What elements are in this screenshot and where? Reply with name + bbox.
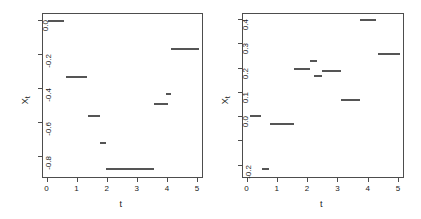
x-axis-title-right: t — [320, 200, 323, 209]
data-segment — [88, 115, 101, 117]
data-segment — [100, 142, 106, 144]
data-segment — [310, 60, 318, 62]
x-axis-tick — [277, 178, 278, 182]
x-axis-tick — [137, 178, 138, 182]
data-segment — [106, 168, 154, 170]
y-axis-tick-label: 0.3 — [242, 43, 250, 54]
x-axis-tick — [398, 178, 399, 182]
y-axis-title-text: X — [220, 98, 230, 104]
x-axis-tick — [197, 178, 198, 182]
x-axis-tick-label: 3 — [127, 185, 147, 193]
x-axis-tick — [247, 178, 248, 182]
x-axis-tick — [368, 178, 369, 182]
y-axis-tick-label: 0.4 — [242, 19, 250, 30]
x-axis-tick — [107, 178, 108, 182]
x-axis-tick-label: 4 — [358, 185, 378, 193]
x-axis-tick — [47, 178, 48, 182]
data-segment — [314, 75, 322, 77]
data-segment — [250, 115, 261, 117]
y-axis-tick-label: 0.0 — [242, 116, 250, 127]
y-axis-tick-label: 0.0 — [42, 20, 50, 31]
y-axis-tick-label: -0.2 — [245, 165, 253, 179]
data-segment — [341, 99, 359, 101]
x-axis-tick — [77, 178, 78, 182]
x-axis-tick-label: 5 — [388, 185, 408, 193]
y-axis-title-subscript: t — [224, 96, 231, 98]
y-axis-tick-label: 0.2 — [242, 68, 250, 79]
y-axis-tick-label: 0.1 — [242, 92, 250, 103]
x-axis-tick-label: 2 — [97, 185, 117, 193]
plot-area-left — [42, 13, 203, 178]
y-axis-tick — [238, 165, 242, 166]
plot-area-right — [242, 13, 404, 178]
data-segment — [66, 76, 86, 78]
data-segment — [270, 123, 294, 125]
panel-right: 0.40.30.20.10.0-0.2012345 Xt t — [211, 0, 421, 219]
y-axis-tick — [38, 156, 42, 157]
x-axis-tick-label: 5 — [187, 185, 207, 193]
figure-two-panel-step-plots: 0.0-0.2-0.4-0.6-0.8012345 Xt t 0.40.30.2… — [0, 0, 421, 219]
x-axis-tick — [307, 178, 308, 182]
y-axis-tick — [38, 122, 42, 123]
x-axis-tick-label: 3 — [327, 185, 347, 193]
x-axis-tick-label: 2 — [297, 185, 317, 193]
data-segment — [262, 168, 269, 170]
x-axis-tick-label: 1 — [267, 185, 287, 193]
series-segments-left — [43, 14, 202, 177]
y-axis-title-right: Xt — [221, 96, 232, 104]
x-axis-title-left: t — [120, 200, 123, 209]
y-axis-title-text: X — [20, 98, 30, 104]
x-axis-tick — [337, 178, 338, 182]
x-axis-tick-label: 1 — [67, 185, 87, 193]
y-axis-tick — [38, 54, 42, 55]
x-axis-tick-label: 0 — [237, 185, 257, 193]
data-segment — [48, 20, 64, 22]
y-axis-tick-label: -0.8 — [45, 156, 53, 170]
panel-left: 0.0-0.2-0.4-0.6-0.8012345 Xt t — [0, 0, 211, 219]
y-axis-tick-label: -0.6 — [45, 122, 53, 136]
y-axis-tick-label: -0.2 — [45, 54, 53, 68]
y-axis-tick — [238, 140, 242, 141]
data-segment — [171, 48, 199, 50]
y-axis-tick-label: -0.4 — [45, 88, 53, 102]
data-segment — [360, 19, 377, 21]
series-segments-right — [243, 14, 403, 177]
x-axis-tick-label: 4 — [157, 185, 177, 193]
data-segment — [322, 70, 342, 72]
y-axis-title-subscript: t — [24, 96, 31, 98]
data-segment — [154, 103, 168, 105]
y-axis-tick — [38, 88, 42, 89]
x-axis-tick-label: 0 — [37, 185, 57, 193]
data-segment — [294, 68, 309, 70]
x-axis-tick — [167, 178, 168, 182]
data-segment — [166, 93, 171, 95]
y-axis-title-left: Xt — [21, 96, 32, 104]
data-segment — [378, 53, 401, 55]
